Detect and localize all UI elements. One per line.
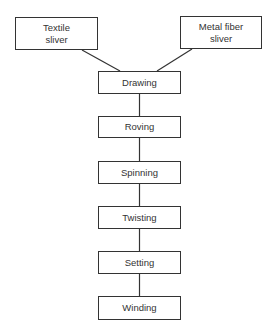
node-spinning: Spinning — [98, 161, 181, 184]
node-metal-fiber-sliver: Metal fiber sliver — [180, 16, 262, 49]
node-drawing: Drawing — [98, 71, 181, 94]
node-twisting: Twisting — [98, 206, 181, 229]
node-winding: Winding — [98, 296, 181, 320]
edge-textile-drawing — [82, 50, 120, 71]
node-textile-sliver: Textile sliver — [15, 17, 98, 50]
node-roving: Roving — [98, 116, 181, 138]
edge-metal-drawing — [157, 49, 192, 71]
node-setting: Setting — [98, 251, 181, 274]
